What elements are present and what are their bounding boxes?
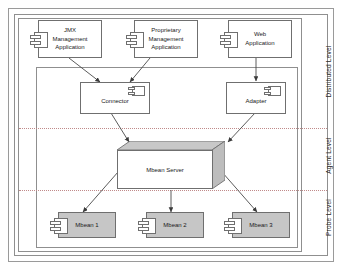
- component-icon: [220, 32, 238, 48]
- component-label: Web Application: [245, 30, 274, 47]
- component-label: Adapter: [245, 97, 266, 106]
- component-icon: [30, 32, 48, 48]
- component-icon: [128, 86, 145, 96]
- component-mbean-3[interactable]: Mbean 3: [232, 212, 290, 238]
- component-icon: [126, 32, 144, 48]
- component-label: Mbean 1: [75, 221, 98, 230]
- node-mbean-server[interactable]: Mbean Server: [117, 141, 225, 189]
- component-adapter[interactable]: Adapter: [226, 82, 286, 114]
- level-label-distributed: Distributed Level: [325, 22, 332, 122]
- component-web-application[interactable]: Web Application: [228, 20, 292, 58]
- component-proprietary-management-application[interactable]: Proprietary Management Application: [134, 20, 198, 58]
- component-label: Mbean 2: [163, 221, 186, 230]
- component-mbean-1[interactable]: Mbean 1: [58, 212, 116, 238]
- component-label: JMX Management Application: [52, 26, 87, 52]
- component-connector[interactable]: Connector: [80, 82, 150, 114]
- node-label: Mbean Server: [146, 167, 184, 173]
- component-jmx-management-application[interactable]: JMX Management Application: [38, 20, 102, 58]
- component-mbean-2[interactable]: Mbean 2: [146, 212, 204, 238]
- component-icon: [50, 218, 68, 234]
- level-separator-distributed-agent: [19, 128, 327, 129]
- component-icon: [138, 218, 156, 234]
- component-icon: [264, 86, 281, 96]
- component-label: Proprietary Management Application: [148, 26, 183, 52]
- mbean-server-front-face: Mbean Server: [117, 150, 213, 189]
- component-label: Connector: [101, 97, 129, 106]
- component-label: Mbean 3: [249, 221, 272, 230]
- level-label-probe: Probe Level: [325, 173, 332, 263]
- diagram-canvas: Distributed Level Agent Level Probe Leve…: [0, 0, 342, 270]
- level-separator-agent-probe: [19, 190, 327, 191]
- component-icon: [224, 218, 242, 234]
